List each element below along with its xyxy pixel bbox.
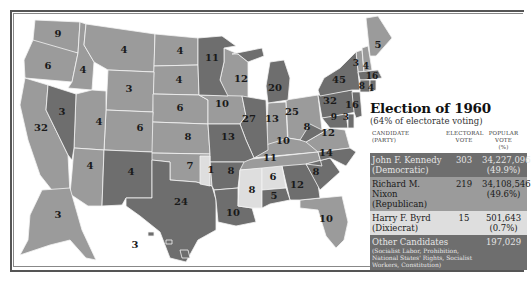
label-id: 4 [80, 64, 87, 75]
header-electoral-label: ELECTORAL [446, 130, 484, 136]
label-az: 4 [87, 160, 94, 171]
label-oh: 25 [285, 106, 299, 117]
popular-percent: (0.7%) [489, 223, 517, 233]
label-mi: 20 [268, 82, 282, 93]
label-de: 3 [343, 112, 349, 122]
label-sd: 4 [176, 74, 183, 85]
popular-cell: 34,227,096 (49.9%) [482, 155, 525, 175]
legend-row-nixon: Richard M. Nixon (Republican) 219 34,108… [370, 177, 527, 211]
popular-percent: (49.9%) [487, 165, 521, 175]
legend-title: Election of 1960 [370, 101, 527, 116]
label-ks: 8 [185, 131, 192, 142]
state-ks [150, 122, 210, 154]
candidate-party: (Republican) [372, 199, 427, 209]
popular-cell: 34,108,546 (49.6%) [482, 179, 525, 209]
label-nm: 4 [128, 166, 135, 177]
label-ut: 4 [96, 116, 103, 127]
legend-subtitle: (64% of electorate voting) [370, 116, 527, 127]
header-popular: POPULAR VOTE (%) [482, 130, 525, 151]
label-wi: 12 [234, 73, 248, 84]
label-co: 6 [137, 122, 144, 133]
header-popular-label: POPULAR VOTE [489, 130, 519, 143]
label-nv: 3 [59, 106, 66, 117]
label-sc: 8 [313, 166, 320, 177]
label-va: 12 [321, 127, 335, 138]
label-al-byrd: 6 [270, 171, 277, 182]
candidate-party: (Socialist Labor, Prohibition, National … [372, 247, 482, 268]
label-nc: 14 [319, 147, 333, 158]
label-ny: 45 [332, 74, 346, 85]
label-ms: 8 [249, 184, 256, 195]
popular-cell: 197,029 [482, 237, 525, 268]
state-co [104, 110, 153, 152]
label-tx: 24 [174, 196, 188, 207]
candidate-name: John F. Kennedy [372, 155, 442, 165]
popular-cell: 501,643 (0.7%) [482, 213, 525, 233]
candidate-name: Other Candidates [372, 237, 448, 247]
candidate-cell: Harry F. Byrd (Dixiecrat) [372, 213, 446, 233]
label-la: 10 [226, 207, 240, 218]
popular-vote: 34,108,546 [482, 179, 531, 189]
label-il: 27 [242, 113, 256, 124]
candidate-cell: Other Candidates (Socialist Labor, Prohi… [372, 237, 482, 268]
popular-vote: 34,227,096 [482, 155, 531, 165]
header-electoral: ELECTORAL VOTE [446, 130, 482, 151]
popular-vote: 197,029 [486, 237, 521, 247]
popular-vote: 501,643 [486, 213, 521, 223]
label-ia: 10 [215, 98, 229, 109]
label-mt: 4 [121, 44, 128, 55]
electoral-vote: 219 [446, 179, 482, 209]
label-or: 6 [45, 60, 52, 71]
candidate-cell: John F. Kennedy (Democratic) [372, 155, 446, 175]
label-ct: 8 [359, 81, 365, 91]
label-ne: 6 [177, 102, 184, 113]
label-wa: 9 [55, 28, 62, 39]
label-wy: 3 [126, 83, 133, 94]
label-ga: 12 [290, 179, 304, 190]
election-legend: Election of 1960 (64% of electorate voti… [370, 101, 527, 270]
header-vote-label: VOTE [456, 137, 473, 143]
state-me [366, 16, 392, 56]
label-nj: 16 [345, 99, 359, 110]
label-hi: 3 [132, 239, 139, 250]
header-candidate-label: CANDIDATE [372, 130, 409, 136]
legend-header-row: CANDIDATE (PARTY) ELECTORAL VOTE POPULAR… [370, 130, 527, 151]
label-me: 5 [375, 39, 382, 50]
label-al: 5 [271, 190, 278, 201]
candidate-party: (Dixiecrat) [372, 223, 418, 233]
label-vt: 3 [353, 58, 359, 68]
label-ri: 4 [368, 83, 374, 93]
label-md: 9 [331, 112, 337, 122]
electoral-vote: 303 [446, 155, 482, 175]
candidate-party: (Democratic) [372, 165, 428, 175]
header-percent-label: (%) [498, 144, 508, 150]
candidate-cell: Richard M. Nixon (Republican) [372, 179, 446, 209]
header-party-label: (PARTY) [372, 137, 396, 143]
legend-row-other: Other Candidates (Socialist Labor, Prohi… [370, 235, 527, 270]
label-fl: 10 [319, 213, 333, 224]
label-nh: 4 [363, 61, 369, 71]
label-ak: 3 [55, 209, 62, 220]
label-ok: 7 [187, 160, 194, 171]
popular-percent: (49.6%) [487, 189, 521, 199]
label-tn: 11 [263, 152, 277, 163]
candidate-name: Harry F. Byrd [372, 213, 431, 223]
label-pa: 32 [323, 95, 337, 106]
label-mn: 11 [205, 52, 219, 63]
header-candidate: CANDIDATE (PARTY) [372, 130, 446, 151]
label-wv: 8 [304, 121, 311, 132]
label-nd: 4 [177, 45, 184, 56]
legend-row-kennedy: John F. Kennedy (Democratic) 303 34,227,… [370, 153, 527, 177]
state-az [70, 148, 104, 206]
label-ky: 10 [276, 135, 290, 146]
candidate-name: Richard M. Nixon [372, 179, 420, 199]
label-ar: 8 [228, 165, 235, 176]
label-mo: 13 [221, 131, 235, 142]
label-ma: 16 [366, 71, 379, 81]
label-ok-byrd: 1 [208, 164, 215, 175]
label-ca: 32 [34, 122, 48, 133]
legend-row-byrd: Harry F. Byrd (Dixiecrat) 15 501,643 (0.… [370, 211, 527, 235]
state-mt [84, 24, 155, 72]
electoral-vote: 15 [446, 213, 482, 233]
label-in: 13 [265, 113, 279, 124]
